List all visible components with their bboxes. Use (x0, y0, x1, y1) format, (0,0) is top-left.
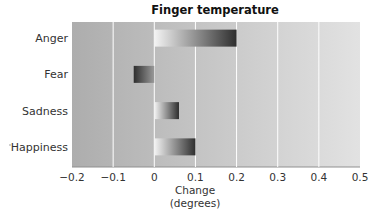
x-tick-label: 0.2 (228, 171, 245, 183)
category-label-happiness: Happiness (11, 141, 69, 154)
x-tick-label: 0.3 (269, 171, 286, 183)
bar-anger (154, 30, 236, 47)
bar-happiness (154, 138, 195, 155)
x-tick-labels: −0.2−0.100.10.20.30.40.5 (59, 171, 368, 183)
x-tick-label: −0.2 (59, 171, 85, 183)
x-axis-label-line2: (degrees) (170, 197, 220, 209)
scan-artifact-dot (9, 144, 11, 146)
x-axis-label-line1: Change (175, 184, 215, 196)
category-label-anger: Anger (35, 32, 68, 45)
bar-fear (134, 66, 155, 83)
chart-title: Finger temperature (151, 3, 279, 17)
x-tick-label: 0.1 (187, 171, 204, 183)
category-label-fear: Fear (44, 68, 68, 81)
category-label-sadness: Sadness (22, 105, 68, 118)
category-labels: AngerFearSadnessHappiness (11, 32, 69, 154)
x-tick-label: −0.1 (100, 171, 126, 183)
bar-sadness (154, 102, 179, 119)
x-tick-label: 0.4 (311, 171, 328, 183)
bar-chart: Finger temperature AngerFearSadnessHappi… (0, 0, 387, 220)
x-tick-label: 0.5 (352, 171, 369, 183)
x-tick-label: 0 (151, 171, 158, 183)
